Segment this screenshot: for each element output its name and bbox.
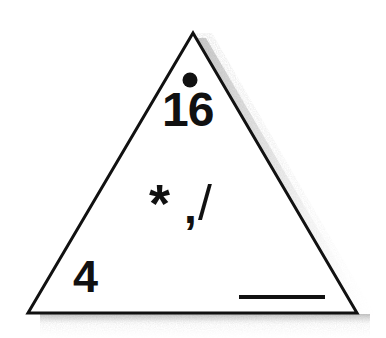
triangle-svg [0, 0, 386, 338]
divide-operator: / [198, 178, 212, 228]
operator-separator: , [184, 184, 197, 230]
bottom-shadow [40, 314, 370, 338]
bottom-left-number: 4 [73, 254, 98, 299]
figure-canvas: 16 * , / 4 [0, 0, 386, 338]
top-number: 16 [162, 86, 213, 134]
multiply-operator: * [149, 176, 170, 230]
